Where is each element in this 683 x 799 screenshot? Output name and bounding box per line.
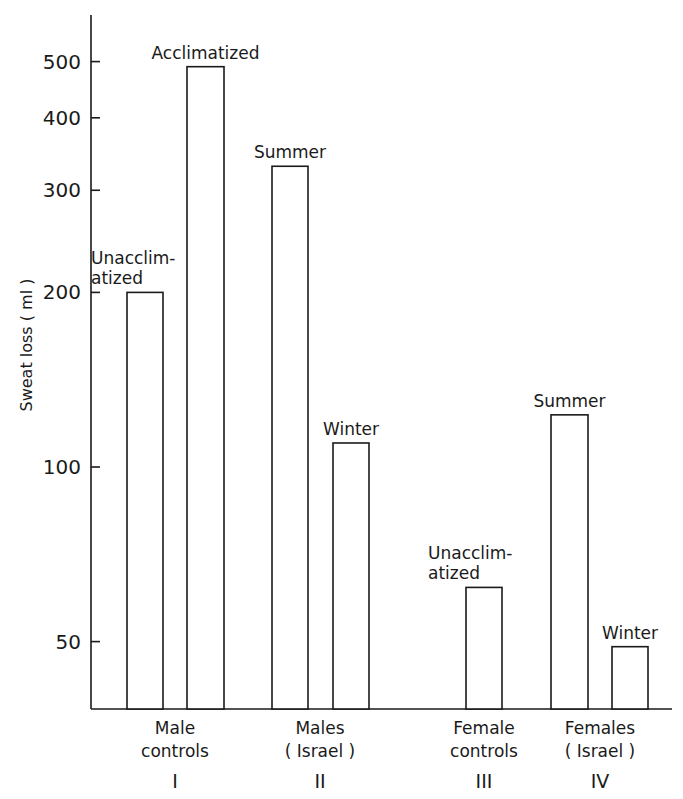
bar <box>466 587 502 709</box>
bar <box>612 647 648 709</box>
group-label: Females <box>565 718 635 738</box>
group-label: ( Israel ) <box>565 741 636 761</box>
bar-label: Unacclim- <box>91 248 175 268</box>
bar <box>127 292 163 709</box>
y-tick-label: 50 <box>56 630 81 654</box>
bar-label: Acclimatized <box>151 43 259 63</box>
bar-label: Winter <box>602 623 658 643</box>
y-tick-label: 500 <box>43 50 81 74</box>
bar <box>187 67 224 709</box>
bar-label: Winter <box>323 419 379 439</box>
group-label: Female <box>453 718 514 738</box>
bar-label: Summer <box>254 142 326 162</box>
group-label: Male <box>155 718 195 738</box>
group-numeral: III <box>476 770 493 792</box>
bars <box>127 67 648 709</box>
bar-label: Unacclim- <box>428 543 512 563</box>
y-tick-label: 100 <box>43 455 81 479</box>
group-numeral: IV <box>591 770 610 792</box>
y-tick-label: 300 <box>43 178 81 202</box>
bar <box>272 166 308 709</box>
group-label: Males <box>295 718 344 738</box>
bar-label: atized <box>428 563 480 583</box>
y-axis-label: Sweat loss ( ml ) <box>17 279 36 412</box>
bar-label: Summer <box>533 391 605 411</box>
y-tick-label: 400 <box>43 106 81 130</box>
bar <box>551 415 588 709</box>
group-label: ( Israel ) <box>285 741 356 761</box>
bar-label: atized <box>91 268 143 288</box>
group-numeral: I <box>172 770 178 792</box>
group-labels: MalecontrolsIMales( Israel )IIFemalecont… <box>141 718 635 792</box>
group-label: controls <box>141 741 209 761</box>
y-axis: 50100200300400500 <box>43 15 100 709</box>
bar <box>333 443 369 709</box>
y-tick-label: 200 <box>43 280 81 304</box>
bar-chart: 50100200300400500 Unacclim-atizedAcclima… <box>0 0 683 799</box>
group-numeral: II <box>314 770 325 792</box>
group-label: controls <box>450 741 518 761</box>
